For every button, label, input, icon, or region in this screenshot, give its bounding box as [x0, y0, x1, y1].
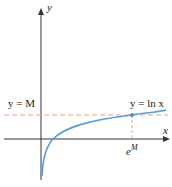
e-exponent: M [131, 143, 138, 152]
ln-diagram: y x y = M y = ln x eM [0, 0, 172, 187]
intersection-point [130, 113, 134, 117]
e-M-label: eM [126, 143, 138, 157]
diagram-canvas [0, 0, 172, 187]
x-axis-arrow-icon [163, 136, 170, 142]
y-axis-label: y [47, 1, 52, 13]
y-equals-ln-x-label: y = ln x [130, 97, 164, 109]
y-equals-M-label: y = M [8, 97, 35, 109]
y-axis-arrow-icon [38, 8, 44, 15]
x-axis-label: x [163, 124, 168, 136]
ln-curve [42, 110, 166, 176]
